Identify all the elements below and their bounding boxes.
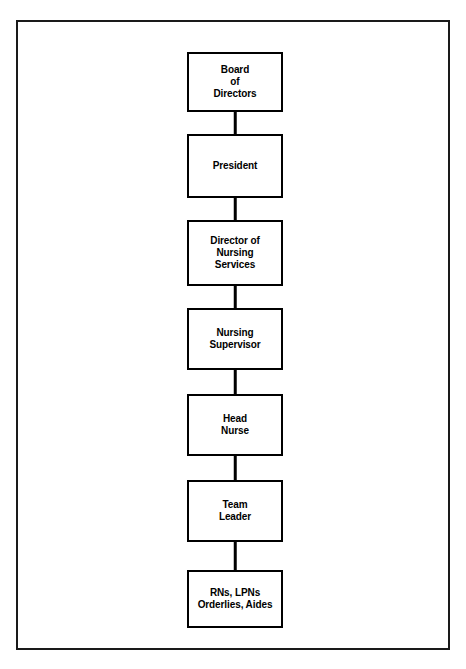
connector-supervisor-to-head-nurse	[234, 370, 237, 394]
node-nursing-supervisor: Nursing Supervisor	[187, 308, 283, 370]
org-chart-page: Board of Directors President Director of…	[0, 0, 466, 669]
node-label-director-of-nursing-services: Director of Nursing Services	[208, 235, 261, 271]
connector-board-to-president	[234, 112, 237, 134]
node-head-nurse: Head Nurse	[187, 394, 283, 456]
node-label-president: President	[211, 160, 260, 172]
node-label-team-leader: Team Leader	[217, 499, 253, 523]
connector-head-nurse-to-team-leader	[234, 456, 237, 480]
connector-president-to-director	[234, 198, 237, 220]
chart-outer-frame: Board of Directors President Director of…	[16, 20, 450, 650]
node-director-of-nursing-services: Director of Nursing Services	[187, 220, 283, 286]
node-team-leader: Team Leader	[187, 480, 283, 542]
node-label-nursing-supervisor: Nursing Supervisor	[207, 327, 262, 351]
node-president: President	[187, 134, 283, 198]
connector-team-leader-to-staff	[234, 542, 237, 570]
node-board-of-directors: Board of Directors	[187, 52, 283, 112]
node-label-head-nurse: Head Nurse	[219, 413, 251, 437]
node-rns-lpns-orderlies-aides: RNs, LPNs Orderlies, Aides	[187, 570, 283, 628]
node-label-board-of-directors: Board of Directors	[211, 64, 258, 100]
organizational-chart: Board of Directors President Director of…	[18, 22, 452, 652]
connector-director-to-supervisor	[234, 286, 237, 308]
node-label-rns-lpns-orderlies-aides: RNs, LPNs Orderlies, Aides	[196, 587, 275, 611]
